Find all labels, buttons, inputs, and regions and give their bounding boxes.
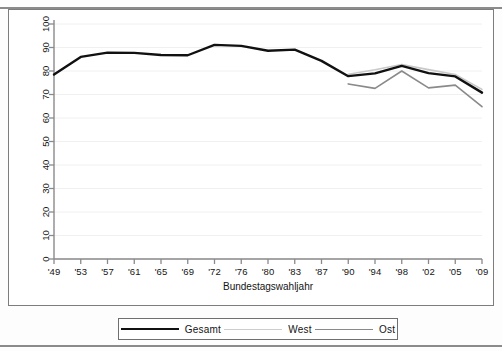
y-tick-label-100: 100	[40, 16, 51, 32]
y-tick-label-40: 40	[40, 160, 51, 171]
x-tick-label-14: '02	[422, 266, 434, 277]
y-tick-label-90: 90	[40, 42, 51, 53]
bottom-divider-rule	[0, 345, 502, 347]
series-line-west	[348, 64, 482, 89]
x-tick-label-16: '09	[476, 266, 488, 277]
y-tick-label-60: 60	[40, 113, 51, 124]
x-tick-label-6: '72	[208, 266, 220, 277]
chart-plot-frame: 0102030405060708090100'49'53'57'61'65'69…	[8, 9, 494, 306]
legend-item-west[interactable]: West	[224, 324, 311, 335]
x-tick-label-12: '94	[369, 266, 381, 277]
series-line-gesamt	[54, 45, 482, 93]
x-tick-label-10: '87	[315, 266, 327, 277]
x-tick-label-1: '53	[75, 266, 87, 277]
figure-container: 0102030405060708090100'49'53'57'61'65'69…	[0, 0, 502, 351]
x-tick-label-15: '05	[449, 266, 461, 277]
x-tick-label-5: '69	[182, 266, 194, 277]
legend-swatch-ost	[315, 329, 373, 330]
y-tick-label-50: 50	[40, 136, 51, 147]
y-tick-label-10: 10	[40, 230, 51, 241]
x-tick-label-11: '90	[342, 266, 354, 277]
x-axis-title: Bundestagswahljahr	[223, 281, 314, 292]
x-tick-label-8: '80	[262, 266, 274, 277]
x-tick-label-3: '61	[128, 266, 140, 277]
x-tick-label-0: '49	[48, 266, 60, 277]
legend-swatch-west	[224, 329, 282, 330]
y-tick-label-30: 30	[40, 183, 51, 194]
legend-item-ost[interactable]: Ost	[315, 324, 395, 335]
legend-swatch-gesamt	[121, 328, 179, 330]
series-line-ost	[348, 71, 482, 107]
line-chart: 0102030405060708090100'49'53'57'61'65'69…	[9, 10, 492, 304]
y-tick-label-20: 20	[40, 207, 51, 218]
y-tick-label-80: 80	[40, 66, 51, 77]
y-tick-label-0: 0	[40, 256, 51, 261]
y-tick-label-70: 70	[40, 89, 51, 100]
legend-label: Ost	[379, 324, 395, 335]
x-tick-label-13: '98	[396, 266, 408, 277]
x-tick-label-7: '76	[235, 266, 247, 277]
legend-label: West	[288, 324, 311, 335]
legend-label: Gesamt	[185, 324, 221, 335]
x-tick-label-9: '83	[289, 266, 301, 277]
x-tick-label-4: '65	[155, 266, 167, 277]
x-tick-label-2: '57	[101, 266, 113, 277]
chart-legend: GesamtWestOst	[118, 318, 398, 340]
legend-item-gesamt[interactable]: Gesamt	[121, 324, 221, 335]
